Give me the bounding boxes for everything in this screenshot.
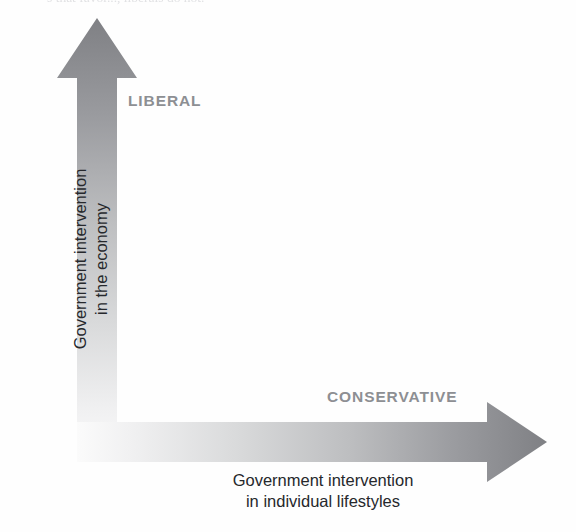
quadrant-label-liberal: LIBERAL <box>128 92 201 110</box>
figure-page: s that favor..., liberals do not. <box>0 0 576 532</box>
y-axis-label: Government intervention in the economy <box>70 109 112 409</box>
quadrant-label-conservative: CONSERVATIVE <box>327 388 458 406</box>
x-axis-label-line1: Government intervention <box>178 470 468 491</box>
y-axis-label-line2: in the economy <box>91 109 112 409</box>
x-axis-label-line2: in individual lifestyles <box>178 491 468 512</box>
x-axis-label: Government intervention in individual li… <box>178 470 468 512</box>
y-axis-label-line1: Government intervention <box>70 109 91 409</box>
